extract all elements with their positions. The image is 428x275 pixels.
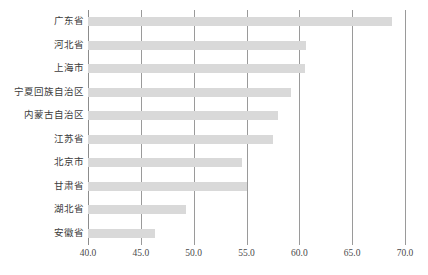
plot-area [88, 10, 405, 245]
category-label: 上海市 [0, 57, 84, 81]
gridline [405, 10, 406, 245]
bar-row [88, 128, 405, 152]
bar-row [88, 198, 405, 222]
category-label: 河北省 [0, 34, 84, 58]
bar [88, 111, 278, 120]
bar [88, 135, 273, 144]
bar-row [88, 104, 405, 128]
bar [88, 158, 242, 167]
category-label: 甘肃省 [0, 175, 84, 199]
bar [88, 64, 305, 73]
x-tick-label: 70.0 [397, 248, 414, 258]
bar-row [88, 222, 405, 246]
bar [88, 229, 155, 238]
bar-rows [88, 10, 405, 245]
category-label: 广东省 [0, 10, 84, 34]
bar [88, 182, 247, 191]
x-tick-label: 40.0 [80, 248, 97, 258]
bar-row [88, 151, 405, 175]
x-tick-label: 50.0 [185, 248, 202, 258]
x-tick-label: 45.0 [133, 248, 150, 258]
bar-row [88, 57, 405, 81]
bar-row [88, 81, 405, 105]
bar [88, 41, 306, 50]
x-tick-label: 55.0 [238, 248, 255, 258]
bar [88, 88, 291, 97]
category-label: 宁夏回族自治区 [0, 81, 84, 105]
horizontal-bar-chart: 广东省河北省上海市宁夏回族自治区内蒙古自治区江苏省北京市甘肃省湖北省安徽省 40… [0, 0, 428, 275]
category-label: 江苏省 [0, 128, 84, 152]
x-axis-tick-labels: 40.045.050.055.060.065.070.0 [0, 248, 428, 262]
bar-row [88, 34, 405, 58]
bar-row [88, 175, 405, 199]
figure-caption [20, 268, 410, 275]
category-label: 内蒙古自治区 [0, 104, 84, 128]
bar [88, 17, 392, 26]
category-label: 湖北省 [0, 198, 84, 222]
category-axis-labels: 广东省河北省上海市宁夏回族自治区内蒙古自治区江苏省北京市甘肃省湖北省安徽省 [0, 10, 84, 245]
bar-row [88, 10, 405, 34]
x-tick-label: 60.0 [291, 248, 308, 258]
category-label: 北京市 [0, 151, 84, 175]
bar [88, 205, 186, 214]
x-tick-label: 65.0 [344, 248, 361, 258]
category-label: 安徽省 [0, 222, 84, 246]
